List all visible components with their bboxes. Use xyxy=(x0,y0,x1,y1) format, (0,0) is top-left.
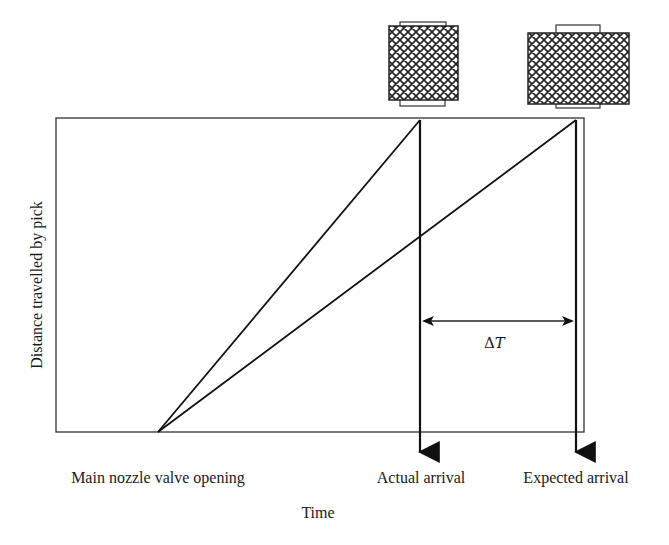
delta-t-label: ΔT xyxy=(484,334,506,352)
pick-arrival-diagram: ΔT Distance travelled by pick Main nozzl… xyxy=(0,0,669,545)
x-axis-label: Time xyxy=(301,504,334,521)
pick-expected-icon xyxy=(528,25,629,108)
actual-trajectory-line xyxy=(158,120,420,432)
start-event-label: Main nozzle valve opening xyxy=(71,469,245,487)
delta-t-arrow xyxy=(422,316,574,326)
actual-arrival-label: Actual arrival xyxy=(377,469,466,486)
pick-actual-icon xyxy=(389,22,458,106)
expected-arrival-label: Expected arrival xyxy=(523,469,629,487)
y-axis-label: Distance travelled by pick xyxy=(28,201,46,369)
plot-frame xyxy=(56,118,584,432)
expected-trajectory-line xyxy=(158,120,576,432)
